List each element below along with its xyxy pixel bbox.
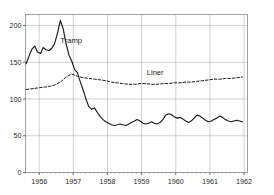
axis-tick-marks [23, 26, 248, 175]
liner-label: Liner [147, 68, 164, 77]
x-tick-label: 1962 [236, 177, 252, 186]
y-tick-label: 50 [14, 131, 22, 140]
y-tick-label: 150 [10, 58, 22, 67]
x-axis-tick-labels: 1956195719581959196019611962 [31, 177, 252, 186]
x-tick-label: 1957 [65, 177, 81, 186]
tramp-label: Tramp [60, 36, 82, 45]
x-tick-label: 1959 [134, 177, 150, 186]
x-tick-label: 1960 [168, 177, 184, 186]
x-tick-label: 1956 [31, 177, 47, 186]
y-tick-label: 0 [18, 168, 22, 177]
x-tick-label: 1958 [99, 177, 115, 186]
x-tick-label: 1961 [202, 177, 218, 186]
plot-frame [26, 15, 248, 173]
y-tick-label: 200 [10, 21, 22, 30]
line-chart: 050100150200 195619571958195919601961196… [0, 0, 274, 195]
plot-border [26, 15, 248, 173]
grid-lines [26, 15, 248, 173]
y-axis-tick-labels: 050100150200 [10, 21, 22, 177]
y-tick-label: 100 [10, 95, 22, 104]
chart-container: 050100150200 195619571958195919601961196… [0, 0, 274, 195]
